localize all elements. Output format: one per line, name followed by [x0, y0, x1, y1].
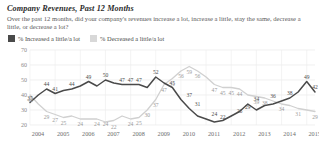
data-label-decreased: 25 [136, 119, 142, 125]
data-label-decreased: 24 [78, 121, 84, 127]
data-label-increased: 31 [195, 100, 201, 106]
x-axis-tick-label: 2015 [309, 130, 319, 137]
x-axis-tick-label: 2011 [208, 130, 220, 137]
data-label-decreased: 40 [27, 97, 33, 103]
data-label-decreased: 44 [237, 91, 243, 97]
data-label-increased: 47 [136, 76, 142, 82]
data-label-decreased: 27 [52, 116, 58, 122]
data-label-decreased: 45 [220, 89, 226, 95]
legend-swatch-decreased [90, 35, 97, 42]
x-axis-tick-label: 2007 [107, 130, 119, 137]
page-title: Company Revenues, Past 12 Months [7, 4, 319, 13]
legend-item-decreased: % Decreased a little/a lot [90, 35, 164, 42]
data-label-decreased: 24 [103, 121, 109, 127]
x-axis-tick-label: 2005 [57, 130, 69, 137]
data-label-increased: 37 [186, 91, 192, 97]
data-label-decreased: 30 [144, 112, 150, 118]
data-label-increased: 29 [245, 103, 251, 109]
data-label-decreased: 29 [312, 113, 318, 119]
chart-plot-area: 2030405060702004200520062007200820092010… [6, 43, 319, 139]
data-label-decreased: 47 [212, 86, 218, 92]
x-axis-tick-label: 2008 [132, 130, 144, 137]
data-label-increased: 49 [86, 73, 92, 79]
y-axis-tick-label: 60 [21, 62, 27, 68]
data-label-increased: 52 [153, 69, 159, 75]
data-label-increased: 49 [304, 73, 310, 79]
data-label-increased: 38 [287, 90, 293, 96]
line-chart-svg: 2030405060702004200520062007200820092010… [6, 43, 319, 139]
data-label-decreased: 56 [178, 73, 184, 79]
legend-item-increased: % Increased a little/a lot [8, 35, 80, 42]
data-label-decreased: 24 [94, 121, 100, 127]
y-axis-tick-label: 40 [21, 92, 27, 98]
data-label-increased: 42 [312, 84, 318, 90]
y-axis-tick-label: 70 [21, 47, 27, 53]
legend-label-increased: % Increased a little/a lot [18, 35, 80, 42]
data-label-increased: 36 [270, 93, 276, 99]
x-axis-tick-label: 2014 [283, 130, 295, 137]
x-axis-tick-label: 2013 [258, 130, 270, 137]
data-label-increased: 24 [212, 111, 218, 117]
data-label-decreased: 24 [128, 121, 134, 127]
chart-legend: % Increased a little/a lot % Decreased a… [8, 35, 319, 42]
data-label-increased: 41 [52, 85, 58, 91]
data-label-decreased: 38 [262, 100, 268, 106]
y-axis-tick-label: 50 [21, 77, 27, 83]
data-label-increased: 50 [103, 72, 109, 78]
data-label-decreased: 51 [170, 80, 176, 86]
data-label-increased: 47 [128, 76, 134, 82]
data-label-decreased: 59 [186, 68, 192, 74]
x-axis-tick-label: 2012 [233, 130, 245, 137]
data-label-decreased: 47 [161, 86, 167, 92]
data-label-decreased: 56 [195, 73, 201, 79]
y-axis-tick-label: 30 [21, 107, 27, 113]
data-label-decreased: 45 [228, 89, 234, 95]
data-label-decreased: 31 [295, 110, 301, 116]
data-label-decreased: 29 [44, 113, 50, 119]
x-axis-tick-label: 2006 [82, 130, 94, 137]
legend-swatch-increased [8, 35, 15, 42]
data-label-increased: 44 [44, 81, 50, 87]
data-label-decreased: 25 [61, 119, 67, 125]
data-label-increased: 44 [69, 81, 75, 87]
data-label-decreased: 34 [279, 106, 285, 112]
data-label-decreased: 39 [254, 98, 260, 104]
data-label-decreased: 37 [153, 101, 159, 107]
chart-subtitle: Over the past 12 months, did your compan… [7, 15, 307, 32]
y-axis-tick-label: 20 [21, 122, 27, 128]
data-label-decreased: 22 [111, 124, 117, 130]
x-axis-tick-label: 2009 [158, 130, 170, 137]
data-label-increased: 47 [119, 76, 125, 82]
data-label-increased: 26 [237, 108, 243, 114]
x-axis-tick-label: 2010 [183, 130, 195, 137]
chart-figure: Company Revenues, Past 12 Months Over th… [0, 0, 325, 160]
legend-label-decreased: % Decreased a little/a lot [100, 35, 164, 42]
x-axis-tick-label: 2004 [32, 130, 44, 137]
data-label-increased: 22 [220, 114, 226, 120]
